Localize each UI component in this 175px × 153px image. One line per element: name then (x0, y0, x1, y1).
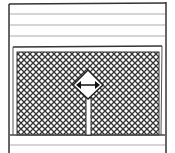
bottom-sill (10, 135, 165, 145)
top-slats (10, 14, 165, 36)
handle-stem (86, 98, 91, 135)
window-sketch (0, 0, 175, 153)
